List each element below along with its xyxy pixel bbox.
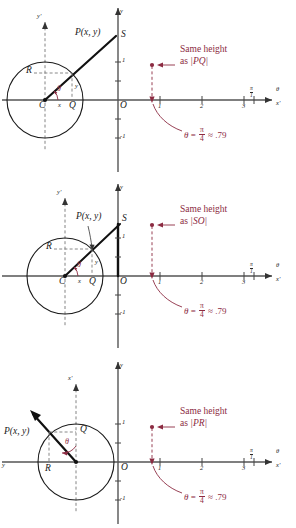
axis-label-y-left: y (2, 462, 5, 469)
eq-equals: = (191, 492, 196, 502)
y-tick-label-neg1: -1 (120, 495, 125, 502)
eq-theta: θ (184, 492, 188, 502)
x-tick-label-2: 2 (200, 465, 203, 472)
eq-value: .79 (215, 492, 226, 502)
note-line-2-prefix: as (180, 56, 188, 66)
point-label-O: O (120, 101, 127, 111)
x-tick-label-3: 3 (242, 279, 245, 286)
eq-equals: = (191, 130, 196, 140)
axis-label-x-prime: x' (276, 276, 280, 283)
axis-label-y: y (120, 8, 123, 15)
eq-theta: θ (184, 306, 188, 316)
note-line-1: Same height (180, 406, 227, 416)
x-tick-label-1: 1 (158, 465, 161, 472)
theta-equation: θ = π 4 ≈ .79 (184, 126, 227, 142)
panel-1: P(x, y) S Q O C R x y θ y' y x' θ 1 -1 1… (0, 0, 296, 176)
axis-label-theta: θ (276, 448, 279, 455)
point-label-R: R (46, 242, 52, 252)
eq-approx: ≈ (208, 492, 213, 502)
y-tick-label-neg1: -1 (120, 309, 125, 316)
x-tick-label-pi: π 1 (250, 86, 253, 98)
y-tick-label-1: 1 (122, 233, 125, 240)
axis-label-y-prime: y' (37, 13, 41, 20)
eq-theta: θ (184, 130, 188, 140)
segment-label-y: y (95, 259, 98, 266)
note-line-1: Same height (180, 44, 227, 54)
same-height-note: Same height as |PR| (180, 406, 227, 429)
note-line-2-prefix: as (180, 216, 188, 226)
point-label-P: P(x, y) (75, 28, 100, 38)
eq-fraction: π 4 (199, 302, 205, 318)
trigonometry-figure: P(x, y) S Q O C R x y θ y' y x' θ 1 -1 1… (0, 0, 296, 528)
note-line-2-prefix: as (180, 418, 188, 428)
point-label-Q: Q (69, 101, 76, 111)
note-line-1: Same height (180, 204, 227, 214)
angle-label-theta: θ (65, 438, 69, 446)
panel-2: P(x, y) S Q O C R x y θ y' y x' θ 1 -1 1… (0, 176, 296, 352)
eq-value: .79 (215, 306, 226, 316)
same-height-note: Same height as |PQ| (180, 44, 227, 67)
axis-label-y: y (120, 362, 123, 369)
x-tick-label-pi: π 1 (250, 448, 253, 460)
axis-label-theta: θ (276, 262, 279, 269)
note-line-2-value: |PQ| (190, 56, 208, 66)
point-label-C: C (59, 277, 65, 287)
axis-label-x-prime: x' (276, 462, 280, 469)
eq-approx: ≈ (208, 306, 213, 316)
panel-3-graphics (0, 352, 296, 528)
point-label-Q: Q (89, 277, 96, 287)
segment-label-x: x (58, 102, 61, 109)
point-label-R: R (26, 66, 32, 76)
eq-value: .79 (215, 130, 226, 140)
point-label-P: P(x, y) (4, 427, 29, 437)
point-label-S: S (122, 214, 127, 224)
axis-label-y-prime: y' (57, 189, 61, 196)
axis-label-x-prime: x' (276, 100, 280, 107)
eq-fraction: π 4 (199, 126, 205, 142)
y-tick-label-1: 1 (122, 419, 125, 426)
axis-label-theta: θ (276, 86, 279, 93)
eq-approx: ≈ (208, 130, 213, 140)
angle-label-theta: θ (77, 261, 81, 269)
x-tick-label-3: 3 (242, 103, 245, 110)
theta-equation: θ = π 4 ≈ .79 (184, 302, 227, 318)
point-label-C: C (39, 101, 45, 111)
x-tick-label-pi: π 1 (250, 262, 253, 274)
point-label-Q: Q (80, 425, 87, 435)
point-label-R: R (45, 464, 51, 474)
axis-label-x-prime-vertical: x' (68, 375, 72, 382)
point-label-O: O (121, 463, 128, 473)
segment-label-y: y (75, 83, 78, 90)
segment-label-x: x (78, 278, 81, 285)
point-label-P: P(x, y) (76, 212, 101, 222)
eq-fraction: π 4 (199, 488, 205, 504)
x-tick-label-1: 1 (158, 279, 161, 286)
x-tick-label-3: 3 (242, 465, 245, 472)
note-line-2-value: |SO| (190, 216, 207, 226)
axis-label-y: y (120, 184, 123, 191)
x-tick-label-1: 1 (158, 103, 161, 110)
point-label-O: O (120, 277, 127, 287)
theta-equation: θ = π 4 ≈ .79 (184, 488, 227, 504)
x-tick-label-2: 2 (200, 103, 203, 110)
same-height-note: Same height as |SO| (180, 204, 227, 227)
y-tick-label-1: 1 (122, 57, 125, 64)
eq-equals: = (191, 306, 196, 316)
note-line-2-value: |PR| (190, 418, 207, 428)
point-label-S: S (121, 30, 126, 40)
panel-3: P(x, y) Q R O θ x' y y x' θ 1 -1 1 2 3 π… (0, 352, 296, 528)
angle-label-theta: θ (57, 85, 61, 93)
x-tick-label-2: 2 (200, 279, 203, 286)
y-tick-label-neg1: -1 (120, 133, 125, 140)
